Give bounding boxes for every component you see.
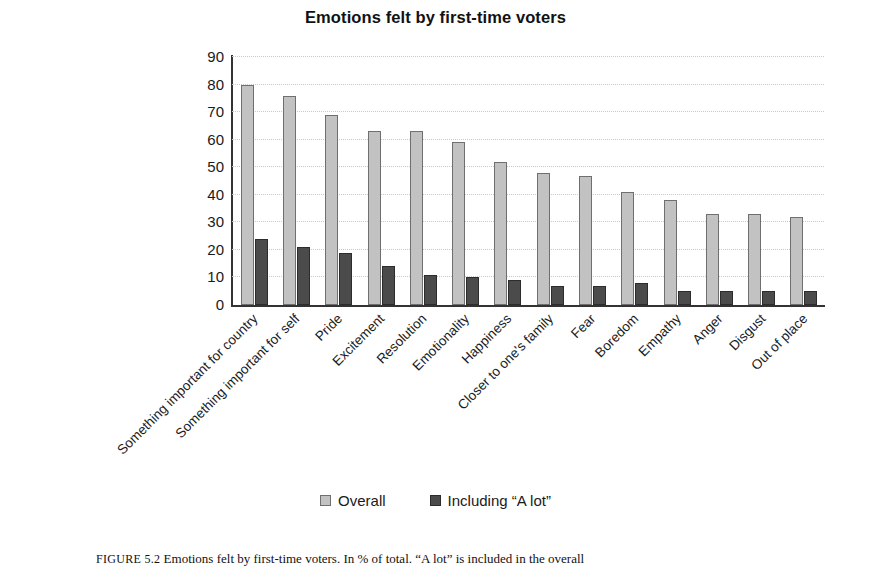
bar-group [537, 57, 564, 305]
bar-group [790, 57, 817, 305]
x-axis-tick-label: Boredom [592, 311, 641, 360]
bar-a-lot [424, 275, 437, 305]
gridline [232, 221, 824, 222]
bar-group [748, 57, 775, 305]
bar-a-lot [551, 286, 564, 305]
bar-overall [368, 131, 381, 305]
bar-overall [664, 200, 677, 305]
bar-overall [537, 173, 550, 305]
bar-group [325, 57, 352, 305]
gridline [232, 111, 824, 112]
bar-overall [452, 142, 465, 305]
figure-number: FIGURE 5.2 [96, 552, 160, 566]
y-axis-tick-label: 10 [186, 269, 224, 284]
x-axis-tick-label: Anger [690, 311, 726, 347]
bar-group [283, 57, 310, 305]
bar-a-lot [678, 291, 691, 305]
bar-group [410, 57, 437, 305]
legend-label: Overall [338, 492, 386, 509]
figure-caption: FIGURE 5.2 Emotions felt by first-time v… [96, 551, 796, 567]
bar-a-lot [635, 283, 648, 305]
bar-overall [621, 192, 634, 305]
figure-caption-text: Emotions felt by first-time voters. In %… [164, 551, 585, 566]
x-axis-tick-label: Pride [312, 311, 345, 344]
legend-item[interactable]: Including “A lot” [430, 492, 551, 509]
y-axis-tick-label: 40 [186, 187, 224, 202]
y-axis-tick-label: 0 [186, 297, 224, 312]
y-axis-tick-label: 90 [186, 49, 224, 64]
bar-group [452, 57, 479, 305]
y-axis-tick-label: 60 [186, 132, 224, 147]
y-axis-tick-label: 30 [186, 214, 224, 229]
bar-a-lot [762, 291, 775, 305]
bar-a-lot [297, 247, 310, 305]
x-axis-line [231, 305, 825, 307]
x-axis-tick-label: Fear [569, 311, 599, 341]
bar-group [241, 57, 268, 305]
bar-a-lot [382, 266, 395, 305]
bar-a-lot [593, 286, 606, 305]
y-axis-tick-label: 50 [186, 159, 224, 174]
bar-overall [241, 85, 254, 305]
bar-overall [325, 115, 338, 305]
gridline [232, 84, 824, 85]
gridline [232, 139, 824, 140]
y-axis-tick-label: 80 [186, 77, 224, 92]
gridline [232, 166, 824, 167]
legend-swatch-overall [320, 495, 331, 506]
gridline [232, 249, 824, 250]
legend-swatch-a-lot [430, 495, 441, 506]
legend-label: Including “A lot” [448, 492, 551, 509]
bar-group [579, 57, 606, 305]
y-axis-tick-label: 70 [186, 104, 224, 119]
bar-overall [410, 131, 423, 305]
figure-container: Emotions felt by first-time voters 01020… [0, 0, 871, 568]
chart-title: Emotions felt by first-time voters [0, 8, 871, 27]
bar-overall [494, 162, 507, 305]
bar-overall [790, 217, 803, 305]
chart-legend: OverallIncluding “A lot” [0, 492, 871, 509]
bar-group [621, 57, 648, 305]
gridline [232, 56, 824, 57]
bar-a-lot [720, 291, 733, 305]
bar-overall [748, 214, 761, 305]
bar-overall [706, 214, 719, 305]
bar-a-lot [508, 280, 521, 305]
bar-group [664, 57, 691, 305]
x-axis-tick-label: Empathy [636, 311, 684, 359]
bar-a-lot [466, 277, 479, 305]
bar-a-lot [804, 291, 817, 305]
y-axis-tick-label: 20 [186, 242, 224, 257]
gridline [232, 194, 824, 195]
bar-a-lot [255, 239, 268, 305]
bar-overall [283, 96, 296, 305]
bar-group [494, 57, 521, 305]
legend-item[interactable]: Overall [320, 492, 386, 509]
bar-overall [579, 176, 592, 306]
bar-a-lot [339, 253, 352, 305]
bar-group [368, 57, 395, 305]
plot-area: 0102030405060708090 [232, 57, 824, 305]
bar-group [706, 57, 733, 305]
gridline [232, 276, 824, 277]
